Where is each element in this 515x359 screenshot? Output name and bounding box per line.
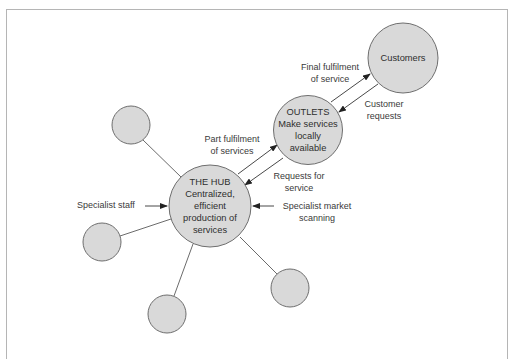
hub-line-4: services: [160, 224, 260, 236]
outlets-title: OUTLETS: [258, 106, 358, 118]
part-fulfilment-label: Part fulfilment of services: [194, 133, 270, 157]
requests-for-service-line-2: service: [264, 182, 334, 194]
part-fulfilment-line-2: of services: [194, 145, 270, 157]
hub-line-1: Centralized,: [160, 188, 260, 200]
customer-requests-line-2: requests: [354, 110, 414, 122]
specialist-staff-text: Specialist staff: [77, 199, 145, 211]
hub-line-2: efficient: [160, 200, 260, 212]
part-fulfilment-line-1: Part fulfilment: [194, 133, 270, 145]
customers-title: Customers: [363, 52, 443, 64]
market-scanning-line-1: Specialist market: [276, 200, 358, 212]
hub-line-3: production of: [160, 212, 260, 224]
outlets-label: OUTLETS Make services locally available: [258, 106, 358, 154]
satellite-node-4: [271, 269, 309, 307]
outlets-line-2: locally: [258, 130, 358, 142]
outlets-line-1: Make services: [258, 118, 358, 130]
spoke-line-3: [174, 244, 193, 296]
spoke-line-1: [143, 140, 181, 177]
customers-label: Customers: [363, 52, 443, 64]
spoke-line-4: [240, 237, 277, 274]
satellite-node-1: [112, 106, 150, 144]
customer-requests-label: Customer requests: [354, 98, 414, 122]
final-fulfilment-line-2: of service: [290, 73, 370, 85]
market-scanning-line-2: scanning: [276, 212, 358, 224]
hub-title: THE HUB: [160, 176, 260, 188]
customer-requests-line-1: Customer: [354, 98, 414, 110]
satellite-node-3: [148, 295, 186, 333]
final-fulfilment-line-1: Final fulfilment: [290, 61, 370, 73]
satellite-node-2: [83, 223, 121, 261]
requests-for-service-line-1: Requests for: [264, 170, 334, 182]
requests-for-service-label: Requests for service: [264, 170, 334, 194]
specialist-staff-label: Specialist staff: [77, 199, 145, 211]
outlets-line-3: available: [258, 142, 358, 154]
market-scanning-label: Specialist market scanning: [276, 200, 358, 224]
hub-label: THE HUB Centralized, efficient productio…: [160, 176, 260, 236]
final-fulfilment-label: Final fulfilment of service: [290, 61, 370, 85]
